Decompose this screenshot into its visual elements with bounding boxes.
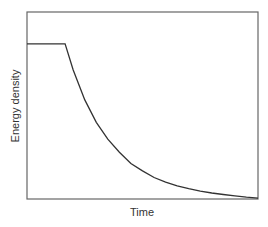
energy-density-curve <box>27 44 258 198</box>
x-axis-label: Time <box>130 206 154 218</box>
y-axis-label: Energy density <box>9 69 21 142</box>
chart: Time Energy density <box>0 0 268 227</box>
